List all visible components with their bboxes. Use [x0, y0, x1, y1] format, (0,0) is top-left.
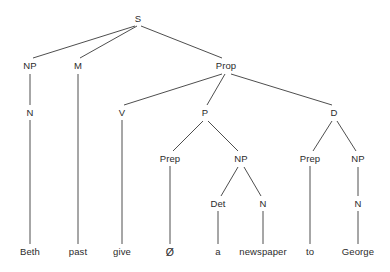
- terminal-word-w_beth: Beth: [19, 247, 42, 257]
- tree-node-p: P: [200, 108, 209, 118]
- tree-node-prep1: Prep: [158, 154, 181, 164]
- tree-edges-layer: [0, 0, 390, 272]
- terminal-word-w_to: to: [304, 247, 315, 257]
- tree-edge-np2-n2: [244, 167, 261, 196]
- tree-node-n3: N: [353, 199, 363, 209]
- terminal-word-w_news: newspaper: [238, 247, 288, 257]
- tree-node-np3: NP: [350, 154, 366, 164]
- tree-node-n1: N: [25, 108, 35, 118]
- tree-node-det: Det: [209, 199, 227, 209]
- tree-node-n2: N: [258, 199, 268, 209]
- tree-node-v: V: [117, 108, 126, 118]
- tree-node-prop: Prop: [214, 61, 237, 71]
- terminal-word-w_george: George: [340, 247, 375, 257]
- tree-edge-p-prep1: [173, 121, 203, 151]
- tree-node-d: D: [329, 108, 339, 118]
- tree-edge-prop-p: [207, 74, 225, 105]
- tree-edge-s-np1: [33, 26, 135, 58]
- tree-edge-prop-d: [231, 74, 332, 105]
- tree-edge-np2-det: [221, 167, 238, 196]
- terminal-word-w_null: Ø: [164, 247, 175, 258]
- tree-edge-p-np2: [208, 121, 238, 151]
- tree-edge-d-prep2: [313, 121, 332, 151]
- tree-node-s: S: [133, 14, 142, 24]
- terminal-word-w_past: past: [67, 247, 88, 257]
- tree-edge-s-m: [80, 26, 137, 58]
- tree-edge-prop-v: [124, 74, 222, 105]
- tree-node-m: M: [72, 61, 83, 71]
- tree-node-np2: NP: [233, 154, 249, 164]
- tree-node-prep2: Prep: [298, 154, 321, 164]
- tree-node-np1: NP: [22, 61, 38, 71]
- tree-edge-s-prop: [141, 26, 222, 58]
- tree-edge-d-np3: [337, 121, 356, 151]
- terminal-word-w_give: give: [112, 247, 133, 257]
- terminal-word-w_a: a: [214, 247, 222, 257]
- syntax-tree-diagram: SNPMPropNVPDPrepNPPrepNPDetNNBethpastgiv…: [0, 0, 390, 272]
